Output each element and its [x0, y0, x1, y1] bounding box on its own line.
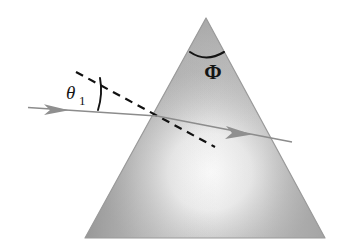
theta-symbol: θ	[66, 82, 75, 103]
prism-refraction-figure: Φ θ 1	[0, 0, 360, 248]
theta-subscript: 1	[79, 93, 86, 108]
diagram-canvas: Φ θ 1	[0, 0, 360, 248]
apex-angle-label: Φ	[204, 60, 221, 84]
